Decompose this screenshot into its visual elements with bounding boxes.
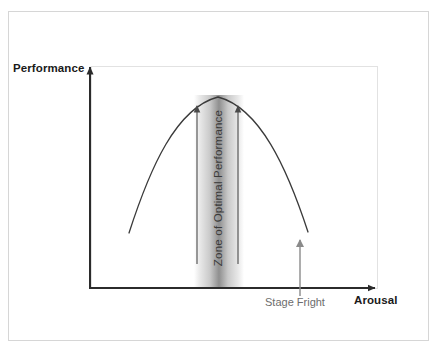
- x-axis-label: Arousal: [354, 294, 398, 306]
- stage-fright-label: Stage Fright: [265, 296, 325, 308]
- zone-of-optimal-performance-label: Zone of Optimal Performance: [212, 110, 224, 266]
- yerkes-dodson-figure: Performance Arousal Zone of Optimal Perf…: [0, 0, 441, 353]
- y-axis-label: Performance: [13, 62, 84, 74]
